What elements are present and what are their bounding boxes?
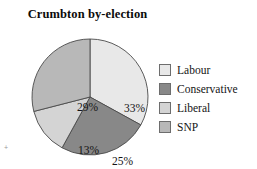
- legend-swatch-labour: [159, 64, 171, 76]
- legend-item-labour: Labour: [159, 61, 257, 79]
- legend-label-snp: SNP: [177, 121, 198, 133]
- pie-chart: 33% 25% 13% 29%: [31, 38, 149, 156]
- slice-label-liberal: 13%: [78, 144, 99, 156]
- slice-label-snp: 29%: [77, 101, 98, 113]
- pie-slice-group: [32, 39, 148, 155]
- legend-swatch-conservative: [159, 83, 171, 95]
- scan-edge-artifact: [0, 0, 257, 2]
- pie-chart-figure: + Crumbton by-election 33% 25% 13% 29% L…: [0, 0, 257, 169]
- legend-label-labour: Labour: [177, 64, 210, 76]
- legend-label-liberal: Liberal: [177, 102, 210, 114]
- legend-item-snp: SNP: [159, 118, 257, 136]
- slice-label-conservative: 25%: [112, 155, 133, 167]
- legend-item-liberal: Liberal: [159, 99, 257, 117]
- chart-title: Crumbton by-election: [0, 7, 175, 22]
- slice-label-labour: 33%: [124, 102, 145, 114]
- legend-item-conservative: Conservative: [159, 80, 257, 98]
- pie-svg: [31, 38, 149, 156]
- legend-label-conservative: Conservative: [177, 83, 238, 95]
- legend-swatch-snp: [159, 121, 171, 133]
- chart-legend: Labour Conservative Liberal SNP: [159, 61, 257, 137]
- scan-tick-artifact: +: [4, 146, 8, 150]
- legend-swatch-liberal: [159, 102, 171, 114]
